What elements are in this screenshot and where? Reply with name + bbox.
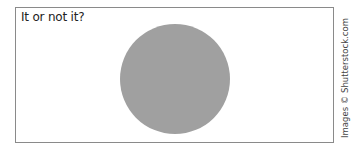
figure-caption: It or not it? bbox=[21, 10, 84, 24]
image-credit: Images © Shutterstock.com bbox=[340, 18, 350, 138]
gray-circle-image bbox=[120, 24, 230, 134]
